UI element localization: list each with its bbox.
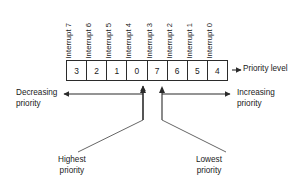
increasing-priority-line2: priority — [237, 99, 275, 110]
interrupt-label-5: Interrupt 5 — [106, 23, 114, 59]
interrupt-label-2: Interrupt 2 — [166, 23, 174, 59]
register-cell-value: 1 — [114, 66, 119, 76]
interrupt-label-3: Interrupt 3 — [146, 23, 154, 59]
interrupt-label-4: Interrupt 4 — [126, 23, 134, 59]
priority-level-text: Priority level — [243, 64, 288, 73]
decreasing-priority-line1: Decreasing — [16, 88, 57, 99]
interrupt-label-cell: Interrupt 3 — [147, 0, 167, 60]
decreasing-priority-line2: priority — [16, 99, 57, 110]
register-cell-value: 0 — [135, 66, 140, 76]
interrupt-priority-figure: Interrupt 7 Interrupt 6 Interrupt 5 Inte… — [0, 0, 307, 188]
interrupt-label-row: Interrupt 7 Interrupt 6 Interrupt 5 Inte… — [66, 0, 228, 60]
interrupt-label-cell: Interrupt 0 — [208, 0, 228, 60]
priority-register-row: 3 2 1 0 7 6 5 4 — [66, 60, 228, 81]
register-cell-value: 7 — [155, 66, 160, 76]
lowest-priority-leader — [159, 86, 226, 152]
interrupt-label-0: Interrupt 0 — [207, 23, 215, 59]
highest-priority-line1: Highest — [58, 155, 86, 166]
priority-level-label: Priority level — [243, 64, 288, 75]
register-cell-value: 5 — [195, 66, 200, 76]
increasing-priority-line1: Increasing — [237, 88, 275, 99]
lowest-priority-label: Lowest priority — [196, 155, 222, 176]
highest-priority-line2: priority — [58, 166, 86, 177]
register-cell-6: 2 — [87, 61, 107, 80]
lowest-priority-line1: Lowest — [196, 155, 222, 166]
register-cell-value: 6 — [175, 66, 180, 76]
decreasing-priority-label: Decreasing priority — [16, 88, 57, 109]
register-cell-5: 1 — [107, 61, 127, 80]
register-cell-2: 6 — [168, 61, 188, 80]
register-cell-value: 3 — [74, 66, 79, 76]
register-cell-1: 5 — [188, 61, 208, 80]
highest-priority-label: Highest priority — [58, 155, 86, 176]
register-cell-4: 0 — [127, 61, 147, 80]
highest-priority-leader — [78, 86, 146, 152]
register-cell-7: 3 — [67, 61, 87, 80]
interrupt-label-7: Interrupt 7 — [65, 23, 73, 59]
interrupt-label-cell: Interrupt 7 — [66, 0, 86, 60]
register-cell-3: 7 — [148, 61, 168, 80]
register-cell-value: 2 — [94, 66, 99, 76]
lowest-priority-line2: priority — [196, 166, 222, 177]
interrupt-label-1: Interrupt 1 — [187, 23, 195, 59]
interrupt-label-6: Interrupt 6 — [85, 23, 93, 59]
increasing-priority-label: Increasing priority — [237, 88, 275, 109]
register-cell-0: 4 — [208, 61, 227, 80]
interrupt-label-cell: Interrupt 4 — [127, 0, 147, 60]
register-cell-value: 4 — [215, 66, 220, 76]
